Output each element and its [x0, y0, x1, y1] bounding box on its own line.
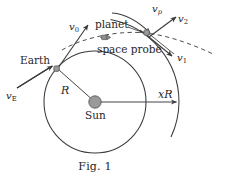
radius-xR-label: xR: [158, 89, 173, 100]
radius-xR-R: R: [164, 88, 172, 101]
radius-R-label: R: [61, 85, 69, 96]
v-zero-subscript: 0: [75, 26, 79, 34]
v-earth-subscript: E: [12, 95, 17, 103]
planet-label: planet: [95, 19, 129, 30]
space-probe-body: [100, 35, 110, 40]
sun-label: Sun: [85, 110, 106, 121]
planet-body: [144, 30, 149, 35]
figure-caption: Fig. 1: [78, 161, 111, 172]
v-two-arrow: [149, 17, 176, 37]
v-one-label: v1: [177, 53, 187, 63]
v-earth-label: vE: [6, 91, 17, 101]
v-zero-symbol: v: [69, 21, 75, 32]
sun-body: [89, 96, 101, 108]
v-one-subscript: 1: [183, 57, 187, 65]
v-earth-symbol: v: [6, 90, 12, 101]
planet-leader-line: [128, 27, 143, 32]
figure-1-container: Earth Sun planet space probe R xR vE v0 …: [0, 0, 225, 179]
v-two-subscript: 2: [184, 18, 188, 26]
v-zero-label: v0: [69, 22, 79, 32]
earth-label: Earth: [20, 55, 50, 66]
v-two-symbol: v: [178, 13, 184, 24]
earth-body: [54, 66, 59, 71]
space-probe-label: space probe: [97, 44, 162, 55]
v-two-label: v2: [178, 14, 188, 24]
v-one-symbol: v: [177, 52, 183, 63]
v-planet-symbol: v: [152, 3, 158, 14]
v-planet-subscript: p: [158, 8, 162, 16]
v-planet-label: vp: [152, 4, 162, 14]
